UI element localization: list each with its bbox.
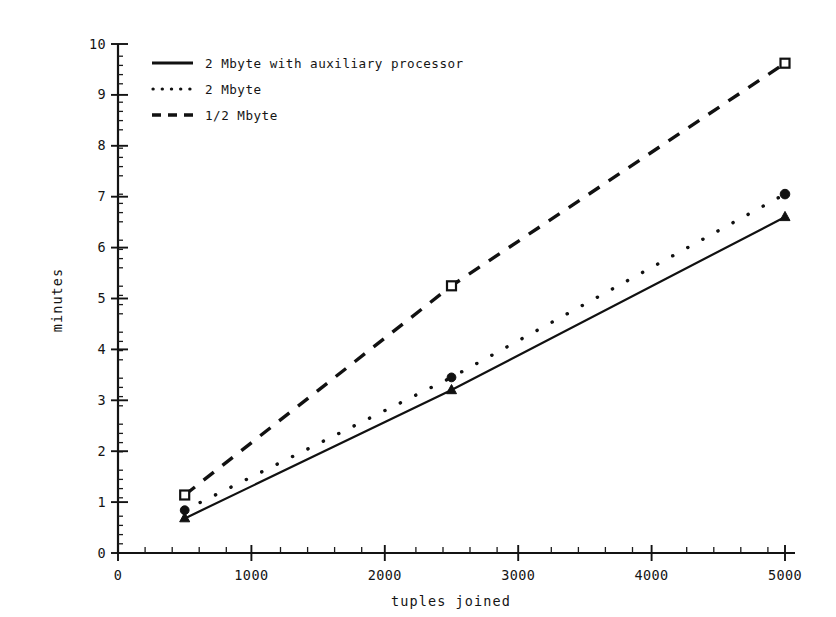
chart-figure: 0 1 2 3 4 5 6 7 8 9 10	[0, 0, 836, 617]
y-tick-label: 9	[97, 86, 106, 102]
y-tick-label: 4	[97, 341, 106, 357]
legend-entry-half-mbyte: 1/2 Mbyte	[152, 108, 278, 123]
y-tick-label: 2	[97, 443, 106, 459]
y-tick-label: 5	[97, 290, 106, 306]
y-tick-label: 8	[97, 137, 106, 153]
y-tick-label: 1	[97, 494, 106, 510]
series-markers-2mbyte-aux	[180, 211, 790, 521]
chart-legend: 2 Mbyte with auxiliary processor 2 Mbyte…	[152, 56, 464, 123]
series-line-half-mbyte	[185, 63, 785, 495]
x-axis-tick-labels: 0 1000 2000 3000 4000 5000	[114, 567, 802, 583]
x-tick-label: 5000	[768, 567, 802, 583]
x-tick-label: 0	[114, 567, 123, 583]
x-tick-label: 2000	[368, 567, 402, 583]
series-line-2mbyte-aux	[185, 217, 785, 518]
y-tick-label: 10	[89, 36, 106, 52]
legend-label-2mbyte: 2 Mbyte	[205, 82, 262, 97]
legend-entry-2mbyte-aux: 2 Mbyte with auxiliary processor	[152, 56, 464, 71]
y-axis-title: minutes	[49, 268, 65, 333]
x-tick-label: 3000	[501, 567, 535, 583]
y-tick-label: 3	[97, 392, 106, 408]
y-tick-label: 7	[97, 188, 106, 204]
chart-canvas: 0 1 2 3 4 5 6 7 8 9 10	[0, 0, 836, 617]
legend-entry-2mbyte: 2 Mbyte	[153, 82, 262, 97]
y-axis-tick-labels: 0 1 2 3 4 5 6 7 8 9 10	[89, 36, 106, 561]
series-markers-2mbyte	[180, 189, 790, 514]
x-axis-title: tuples joined	[391, 593, 511, 609]
legend-label-2mbyte-aux: 2 Mbyte with auxiliary processor	[205, 56, 464, 71]
series-line-2mbyte	[185, 194, 785, 510]
series-markers-half-mbyte	[180, 59, 789, 500]
y-tick-label: 6	[97, 239, 106, 255]
x-tick-label: 4000	[635, 567, 669, 583]
x-tick-label: 1000	[234, 567, 268, 583]
legend-label-half-mbyte: 1/2 Mbyte	[205, 108, 278, 123]
y-tick-label: 0	[97, 545, 106, 561]
